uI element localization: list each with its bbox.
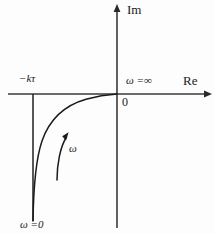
origin-label: 0 xyxy=(122,96,128,108)
annotation-minus-k-tau: −kτ xyxy=(19,73,35,84)
arrowhead-up-icon xyxy=(114,4,121,12)
curved-arrow-up-icon xyxy=(57,132,69,180)
nyquist-locus-curve xyxy=(33,94,117,221)
annotation-omega-infinity: ω =∞ xyxy=(126,75,152,86)
direction-arrow-shaft xyxy=(57,137,67,180)
real-axis-label: Re xyxy=(183,74,197,87)
annotation-omega-direction: ω xyxy=(69,143,77,154)
direction-arrow-head xyxy=(62,132,68,140)
imaginary-axis-label: Im xyxy=(127,3,141,16)
nyquist-plot-figure: Im Re −kτ ω =∞ 0 ω ω =0 xyxy=(0,0,215,234)
plot-canvas xyxy=(0,0,215,234)
imaginary-axis xyxy=(114,4,121,228)
arrowhead-right-icon xyxy=(204,91,212,98)
annotation-omega-zero: ω =0 xyxy=(20,219,43,230)
